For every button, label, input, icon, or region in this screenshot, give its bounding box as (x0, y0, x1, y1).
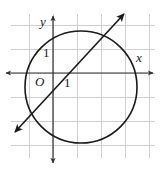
origin-label: O (35, 74, 45, 89)
y-axis-label: y (38, 14, 46, 29)
coordinate-plane-figure: x y O 1 1 (0, 0, 161, 169)
x-axis-tick-label-1: 1 (64, 75, 71, 90)
y-axis-tick-label-1: 1 (43, 45, 50, 60)
figure-container: x y O 1 1 (0, 0, 161, 169)
x-axis-label: x (135, 50, 142, 65)
